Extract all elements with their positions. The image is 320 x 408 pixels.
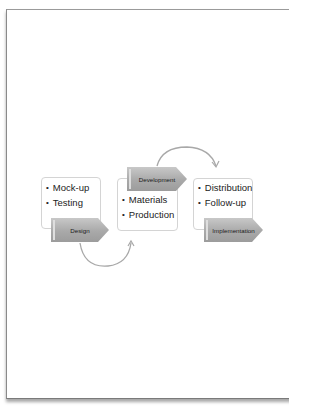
bullet-item: Materials xyxy=(122,193,174,208)
chevron-accent xyxy=(53,220,55,240)
bullet-item: Mock-up xyxy=(46,181,89,196)
stage-label-implementation: Implementation xyxy=(212,227,254,234)
stage-bullets-design: Mock-up Testing xyxy=(46,181,89,210)
stage-chevron-implementation: Implementation xyxy=(204,218,263,242)
stage-chevron-design: Design xyxy=(51,218,109,242)
stage-label-design: Design xyxy=(70,227,89,234)
connector-design-to-development xyxy=(80,243,131,266)
stage-label-development: Development xyxy=(139,176,175,183)
stage-chevron-development: Development xyxy=(127,167,187,191)
bullet-item: Testing xyxy=(46,196,89,211)
bullet-item: Follow-up xyxy=(198,196,252,211)
stage-bullets-development: Materials Production xyxy=(122,193,174,222)
stage-bullets-implementation: Distribution Follow-up xyxy=(198,181,252,210)
chevron-accent xyxy=(129,169,131,189)
connector-development-to-implementation xyxy=(157,147,216,166)
chevron-accent xyxy=(206,220,208,240)
bullet-item: Distribution xyxy=(198,181,252,196)
bullet-item: Production xyxy=(122,208,174,223)
